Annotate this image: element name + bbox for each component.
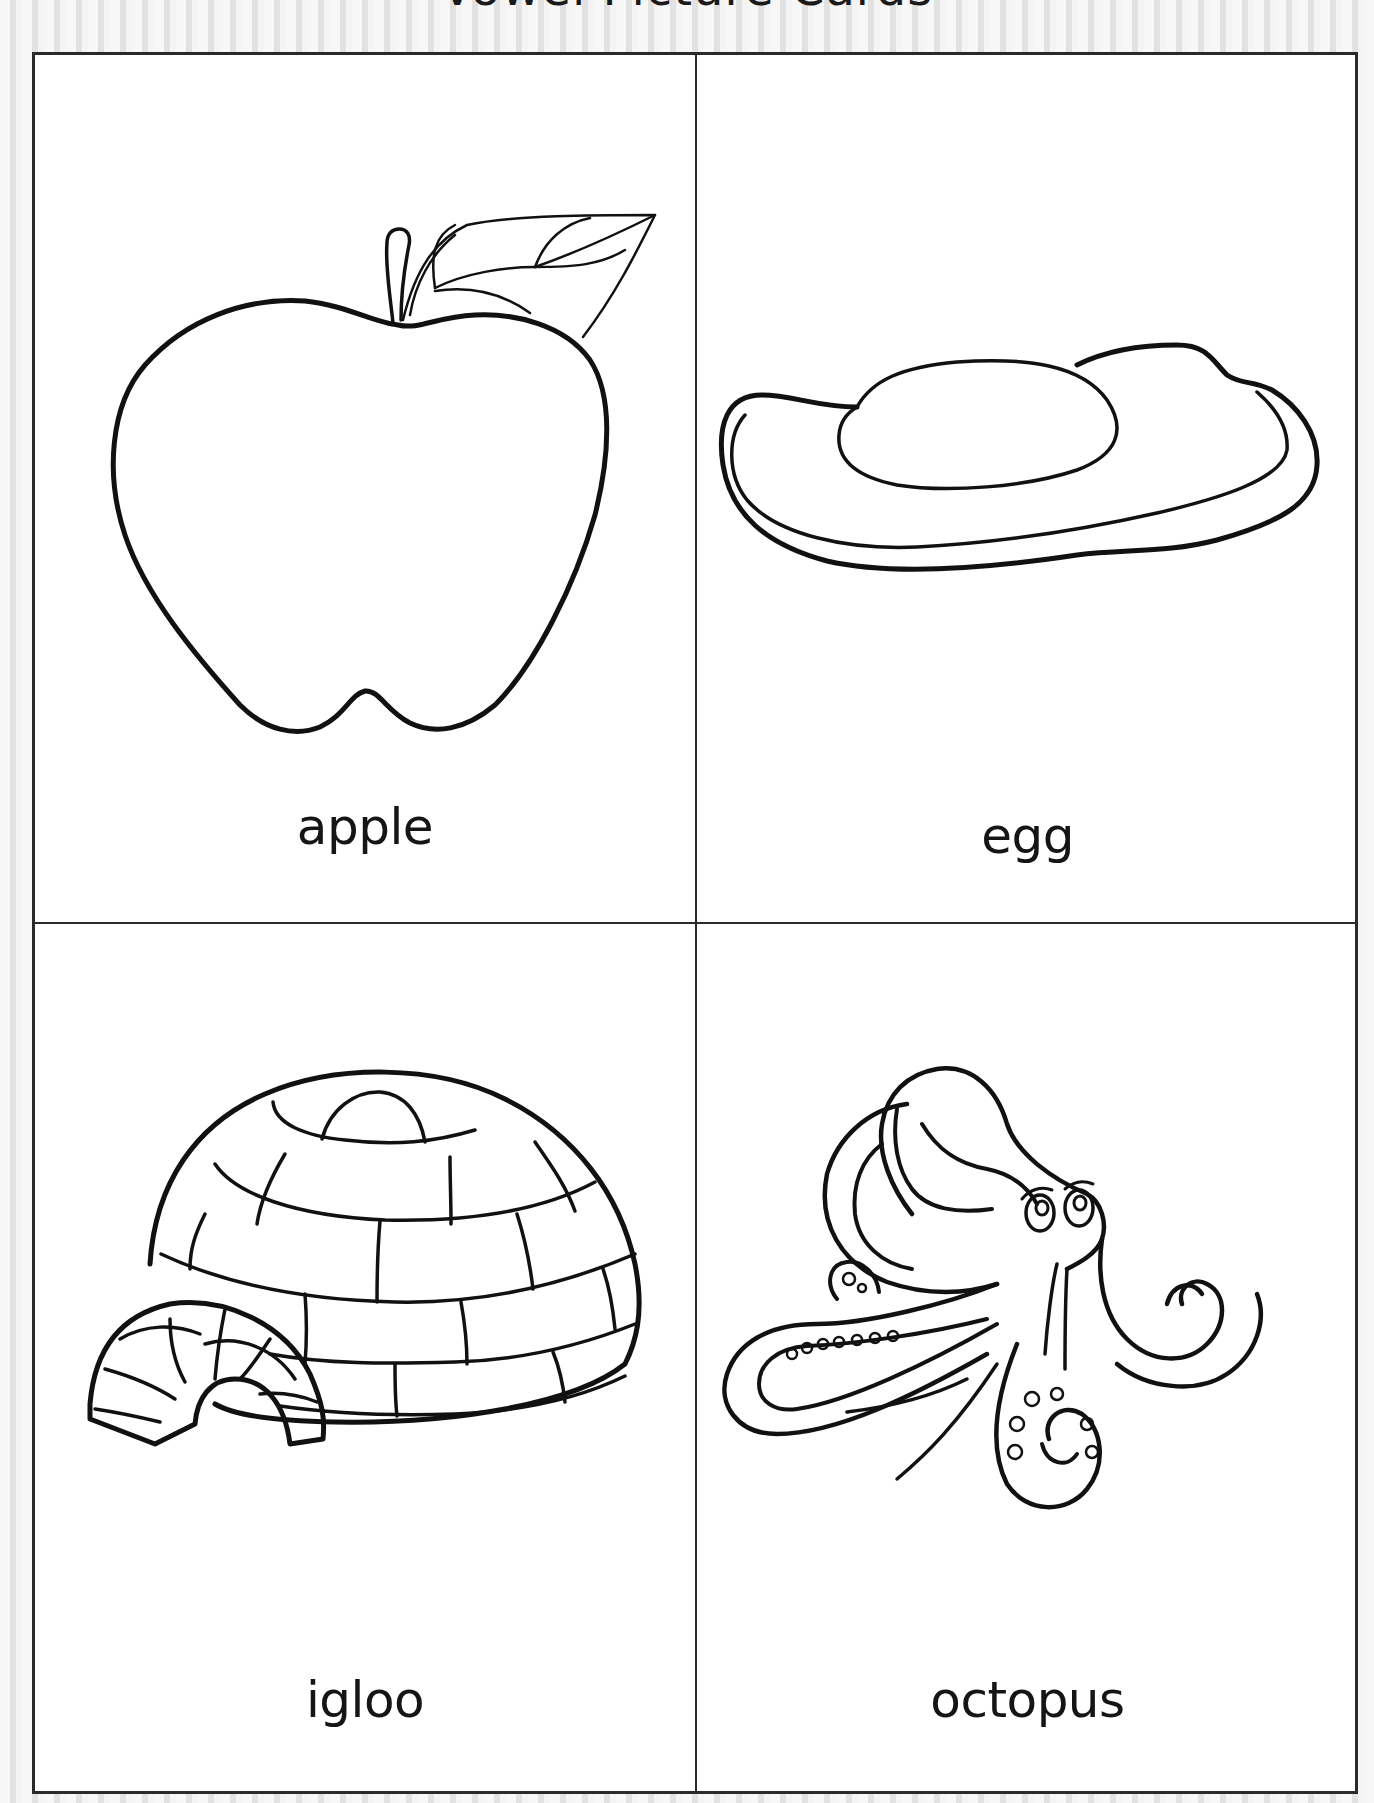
card-egg: egg (697, 55, 1358, 922)
card-label-octopus: octopus (697, 1671, 1358, 1729)
card-label-apple: apple (35, 798, 695, 856)
egg-icon (697, 55, 1358, 755)
page-title: Vowel Picture Cards (0, 0, 1374, 16)
igloo-icon (35, 924, 695, 1624)
card-label-egg: egg (697, 807, 1358, 865)
card-label-igloo: igloo (35, 1671, 695, 1729)
card-octopus: octopus (697, 924, 1358, 1792)
apple-icon (35, 55, 695, 755)
octopus-icon (697, 924, 1358, 1624)
card-sheet: apple egg (32, 52, 1358, 1794)
card-apple: apple (35, 55, 695, 922)
card-igloo: igloo (35, 924, 695, 1792)
